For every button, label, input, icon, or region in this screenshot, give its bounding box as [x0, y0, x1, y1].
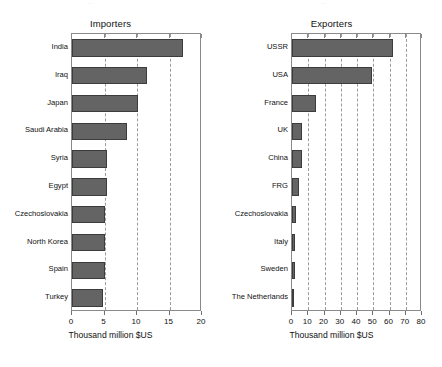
x-tick-mark	[356, 311, 357, 315]
bar	[292, 123, 302, 140]
x-tick-mark-top	[340, 34, 341, 38]
category-label: UK	[221, 126, 288, 134]
x-tick-mark-top	[324, 34, 325, 38]
category-label: China	[221, 154, 288, 162]
x-tick-mark	[136, 311, 137, 315]
x-tick-mark-top	[307, 34, 308, 38]
category-label: Czechoslovakia	[221, 210, 288, 218]
bar	[72, 234, 105, 251]
x-tick-mark-top	[71, 34, 72, 38]
panel-exporters: . . Exporters USSRUSAFranceUKChinaFRGCze…	[221, 0, 442, 367]
x-tick-label: 50	[368, 317, 377, 326]
bar	[72, 178, 107, 195]
importers-x-axis-title: Thousand million $US	[0, 330, 221, 340]
category-label: Italy	[221, 238, 288, 246]
x-tick-mark-top	[389, 34, 390, 38]
bar	[72, 150, 107, 167]
exporters-plot-area	[291, 33, 421, 311]
x-tick-label: 30	[335, 317, 344, 326]
x-tick-mark	[372, 311, 373, 315]
bar	[72, 123, 127, 140]
category-label: Japan	[0, 99, 68, 107]
x-tick-mark	[340, 311, 341, 315]
x-tick-mark	[421, 311, 422, 315]
category-label: France	[221, 99, 288, 107]
x-tick-label: 10	[132, 317, 141, 326]
x-tick-mark	[291, 311, 292, 315]
bar	[72, 95, 138, 112]
category-label: The Netherlands	[221, 293, 288, 301]
x-tick-mark	[405, 311, 406, 315]
category-label: USSR	[221, 43, 288, 51]
x-tick-mark-top	[104, 34, 105, 38]
top-edge-artifact-2: . .	[321, 0, 343, 4]
x-tick-label: 80	[417, 317, 426, 326]
importers-plot-inner	[72, 34, 200, 310]
exporters-chart-title: Exporters	[221, 18, 442, 29]
bar	[72, 206, 105, 223]
bar	[292, 39, 393, 56]
category-label: North Korea	[0, 238, 68, 246]
x-tick-mark	[71, 311, 72, 315]
bar	[292, 234, 295, 251]
x-tick-mark-top	[372, 34, 373, 38]
exporters-gridline	[373, 34, 374, 310]
x-tick-label: 10	[303, 317, 312, 326]
top-edge-artifact: . .	[88, 0, 110, 4]
x-tick-mark	[169, 311, 170, 315]
category-label: Spain	[0, 265, 68, 273]
x-tick-mark-top	[405, 34, 406, 38]
x-tick-label: 0	[69, 317, 73, 326]
bar	[72, 289, 103, 306]
panel-importers: . . Importers IndiaIraqJapanSaudi Arabia…	[0, 0, 221, 367]
x-tick-label: 5	[101, 317, 105, 326]
category-label: USA	[221, 71, 288, 79]
x-tick-mark	[104, 311, 105, 315]
bar	[72, 67, 147, 84]
x-tick-mark-top	[291, 34, 292, 38]
bar	[292, 262, 295, 279]
x-tick-mark-top	[421, 34, 422, 38]
x-tick-label: 15	[164, 317, 173, 326]
category-label: Sweden	[221, 265, 288, 273]
x-tick-mark-top	[201, 34, 202, 38]
x-tick-mark-top	[356, 34, 357, 38]
bar	[292, 289, 294, 306]
exporters-plot-inner	[292, 34, 420, 310]
bar	[72, 262, 105, 279]
category-label: India	[0, 43, 68, 51]
x-tick-mark	[389, 311, 390, 315]
x-tick-mark-top	[169, 34, 170, 38]
importers-chart-title: Importers	[0, 18, 221, 29]
x-tick-label: 20	[197, 317, 206, 326]
category-label: Egypt	[0, 182, 68, 190]
x-tick-label: 60	[384, 317, 393, 326]
category-label: Syria	[0, 154, 68, 162]
figure: . . Importers IndiaIraqJapanSaudi Arabia…	[0, 0, 442, 367]
bar	[292, 178, 299, 195]
x-tick-mark-top	[136, 34, 137, 38]
importers-plot-area	[71, 33, 201, 311]
category-label: Czechoslovakia	[0, 210, 68, 218]
x-tick-label: 20	[319, 317, 328, 326]
category-label: Iraq	[0, 71, 68, 79]
importers-gridline	[170, 34, 171, 310]
exporters-gridline	[406, 34, 407, 310]
exporters-x-axis-title: Thousand million $US	[221, 330, 442, 340]
exporters-gridline	[390, 34, 391, 310]
bar	[292, 206, 296, 223]
category-label: Saudi Arabia	[0, 126, 68, 134]
x-tick-label: 0	[289, 317, 293, 326]
x-tick-mark	[324, 311, 325, 315]
x-tick-mark	[307, 311, 308, 315]
x-tick-label: 40	[352, 317, 361, 326]
x-tick-mark	[201, 311, 202, 315]
category-label: Turkey	[0, 293, 68, 301]
x-tick-label: 70	[400, 317, 409, 326]
bar	[292, 67, 372, 84]
bar	[72, 39, 183, 56]
category-label: FRG	[221, 182, 288, 190]
bar	[292, 150, 302, 167]
bar	[292, 95, 316, 112]
